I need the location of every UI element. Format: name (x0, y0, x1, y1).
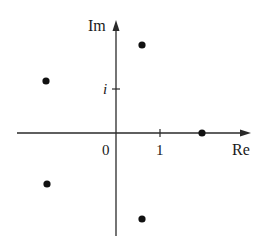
real-tick-label: 1 (156, 142, 164, 158)
point-root-2 (42, 77, 49, 84)
imag-axis-label: Im (88, 17, 106, 34)
point-root-4 (138, 215, 145, 222)
real-axis-arrow-icon (240, 130, 251, 137)
point-root-1 (138, 41, 145, 48)
imag-tick-label: i (103, 81, 107, 97)
complex-plane-diagram: Im Re 0 1 i (0, 0, 273, 241)
point-root-0 (198, 129, 205, 136)
point-root-3 (43, 180, 50, 187)
imaginary-axis-arrow-icon (113, 20, 120, 31)
real-axis-label: Re (232, 141, 250, 158)
origin-label: 0 (102, 142, 110, 158)
